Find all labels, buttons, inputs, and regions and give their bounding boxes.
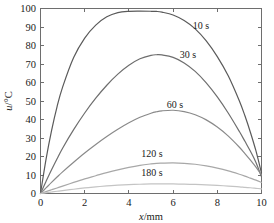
x-tick-label: 10: [256, 197, 267, 208]
y-tick-label: 50: [26, 96, 37, 107]
y-tick-label: 100: [20, 3, 36, 14]
y-tick-label: 10: [26, 170, 37, 181]
curve-label-60-s: 60 s: [167, 99, 184, 110]
y-tick-label: 0: [31, 188, 36, 199]
x-tick-label: 2: [82, 197, 87, 208]
y-tick-label: 60: [26, 77, 37, 88]
y-tick-label: 20: [26, 151, 37, 162]
x-tick-label: 6: [170, 197, 175, 208]
x-tick-label: 8: [215, 197, 220, 208]
y-tick-label: 90: [26, 22, 37, 33]
x-tick-label: 0: [38, 197, 43, 208]
curve-label-10-s: 10 s: [193, 20, 210, 31]
line-chart: 0246810 0102030405060708090100 10 s30 s6…: [0, 0, 274, 223]
curve-label-180-s: 180 s: [141, 167, 163, 178]
y-tick-label: 80: [26, 40, 37, 51]
y-axis-title: u/°C: [3, 91, 14, 110]
curve-label-30-s: 30 s: [180, 49, 197, 60]
y-tick-label: 30: [26, 133, 37, 144]
x-axis-title: x/mm: [138, 211, 163, 222]
chart-figure: 0246810 0102030405060708090100 10 s30 s6…: [0, 0, 274, 223]
curve-label-120-s: 120 s: [141, 148, 163, 159]
y-tick-label: 40: [26, 114, 37, 125]
y-tick-label: 70: [26, 59, 37, 70]
x-tick-label: 4: [126, 197, 132, 208]
